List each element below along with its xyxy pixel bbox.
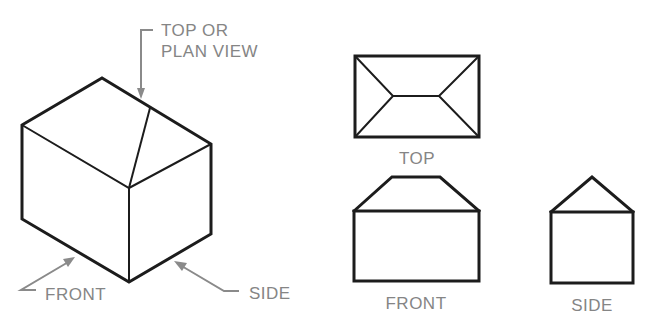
roof-hip-line (129, 108, 150, 188)
front-view-label: FRONT (385, 294, 446, 313)
top-view: TOP (355, 56, 479, 168)
top-view-right-hips (439, 56, 479, 137)
side-view-label: SIDE (571, 296, 613, 315)
front-view-roof (354, 177, 479, 211)
front-arrowhead-icon (63, 257, 75, 267)
side-view: SIDE (551, 177, 633, 315)
callout-side: SIDE (174, 261, 291, 303)
front-view-wall (354, 211, 479, 281)
top-arrowhead-icon (137, 88, 145, 99)
front-view: FRONT (354, 177, 479, 313)
callout-top-line1: TOP OR (161, 21, 229, 40)
side-arrowhead-icon (174, 261, 187, 271)
side-leader-line (180, 265, 239, 291)
orthographic-diagram: TOP OR PLAN VIEW FRONT SIDE TOP FRONT SI… (0, 0, 651, 331)
isometric-house (22, 78, 211, 282)
top-leader-line (141, 30, 153, 92)
top-view-label: TOP (399, 149, 435, 168)
callout-side-label: SIDE (249, 284, 291, 303)
callout-front: FRONT (21, 257, 106, 304)
callout-top-plan-view: TOP OR PLAN VIEW (137, 21, 258, 99)
side-view-roof (551, 177, 633, 212)
side-view-wall (551, 212, 633, 283)
callout-top-line2: PLAN VIEW (161, 42, 258, 61)
front-eave-edge (22, 125, 211, 188)
callout-front-label: FRONT (45, 285, 106, 304)
top-view-left-hips (355, 56, 393, 137)
